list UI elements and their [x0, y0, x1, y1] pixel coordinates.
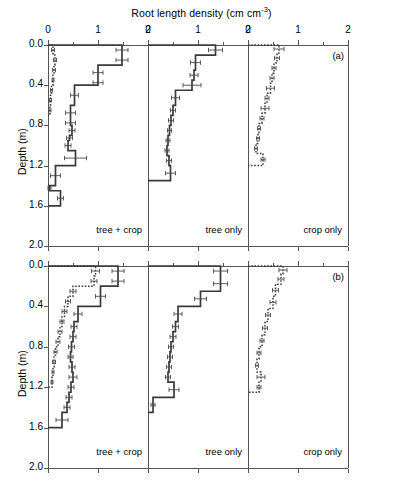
x-tick-label: 2 [338, 24, 358, 35]
x-tick-label: 1 [288, 24, 308, 35]
figure-title-main: Root length density (cm cm [131, 7, 261, 19]
error-bar [53, 68, 56, 72]
error-bar [92, 269, 100, 273]
y-tick-label: 0.4 [12, 299, 43, 310]
series-dotted [248, 266, 283, 392]
y-tick-label: 1.6 [12, 421, 43, 432]
series-dotted [248, 45, 279, 166]
error-bar [91, 279, 97, 283]
x-tick-label: 0 [38, 24, 58, 35]
panel-plot [148, 45, 250, 248]
panel-plot [48, 266, 150, 470]
error-bar [49, 108, 51, 112]
error-bar [257, 136, 260, 140]
error-bar [279, 268, 287, 272]
x-tick-label: 0 [138, 24, 158, 35]
series-solid [148, 45, 216, 181]
y-tick-label: 2.0 [12, 239, 43, 250]
y-tick-label: 0.0 [12, 259, 43, 270]
error-bar [52, 370, 54, 374]
error-bar [270, 76, 274, 80]
y-tick-label: 0.8 [12, 340, 43, 351]
error-bar [270, 300, 276, 304]
error-bar [56, 340, 60, 344]
error-bar [275, 56, 280, 60]
error-bar [52, 48, 55, 52]
y-tick-label: 0.0 [12, 38, 43, 49]
panel-plot [248, 266, 350, 470]
figure-title-tail: ) [268, 7, 272, 19]
error-bar [256, 363, 259, 367]
error-bar [257, 375, 265, 379]
series-solid [48, 45, 122, 206]
error-bar [265, 96, 269, 100]
y-tick-label: 2.0 [12, 461, 43, 472]
series-solid [148, 266, 221, 412]
panel-plot [148, 266, 250, 470]
y-tick-label: 1.2 [12, 380, 43, 391]
x-tick-label: 1 [88, 24, 108, 35]
y-tick-label: 1.6 [12, 199, 43, 210]
y-tick-label: 1.2 [12, 159, 43, 170]
figure-title: Root length density (cm cm-3) [0, 5, 403, 19]
error-bar [58, 329, 62, 333]
figure-root-length-density: Root length density (cm cm-3) Depth (m) … [0, 0, 403, 481]
y-tick-label: 0.8 [12, 118, 43, 129]
panel-plot [48, 45, 150, 248]
x-tick-label: 1 [188, 24, 208, 35]
panel-plot [248, 45, 350, 248]
error-bar [272, 66, 276, 70]
error-bar [54, 350, 57, 354]
error-bar [51, 88, 53, 92]
error-bar [255, 146, 258, 150]
y-tick-label: 0.4 [12, 78, 43, 89]
series-solid [48, 266, 118, 428]
x-tick-label: 0 [238, 24, 258, 35]
